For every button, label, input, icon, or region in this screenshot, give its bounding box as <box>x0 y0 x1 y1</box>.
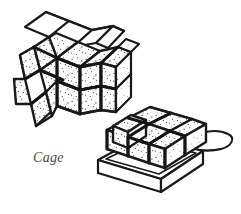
illustration-canvas: Cage <box>0 0 241 214</box>
cage-house-icon <box>14 12 139 126</box>
figure-svg <box>0 0 241 214</box>
figure-caption: Cage <box>33 150 64 166</box>
block-tray-icon <box>98 107 232 192</box>
